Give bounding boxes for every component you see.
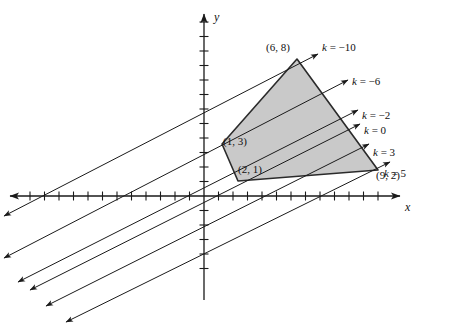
objective-line-label-k-3: k = 3 [373,147,395,158]
x-axis-label: x [405,200,410,215]
graph-canvas [0,0,453,331]
objective-line-k-0 [30,124,360,290]
vertex-label: (6, 8) [266,42,290,53]
vertex-label: (2, 1) [238,164,262,175]
objective-line-label-k-neg10: k = −10 [322,42,356,53]
y-axis-label: y [214,10,219,25]
linear-programming-figure: (6, 8)(1, 3)(2, 1)(9, 2)k = −10k = −6k =… [0,0,453,331]
objective-line-k-5 [66,162,390,322]
objective-line-label-k-5: k = 5 [384,168,406,179]
objective-line-label-k-neg6: k = −6 [352,76,380,87]
objective-lines-layer [4,54,390,322]
vertex-label: (1, 3) [223,136,247,147]
objective-line-label-k-neg2: k = −2 [362,110,390,121]
objective-line-label-k-0: k = 0 [364,125,386,136]
